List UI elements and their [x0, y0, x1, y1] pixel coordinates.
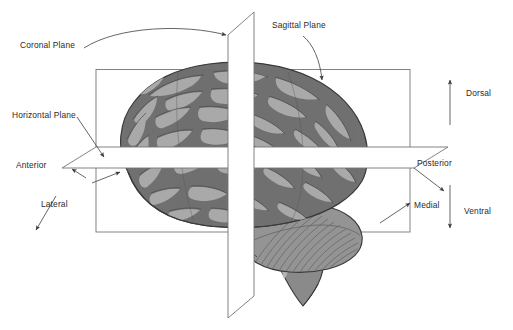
label-lateral: Lateral: [41, 199, 68, 209]
label-coronal-plane: Coronal Plane: [20, 40, 75, 50]
horizontal-plane-slab: [62, 147, 448, 168]
horizontal-plane: [62, 147, 448, 168]
figure-canvas: Coronal Plane Sagittal Plane Horizontal …: [0, 0, 513, 330]
label-anterior: Anterior: [16, 160, 47, 170]
sagittal-plane-slab: [228, 12, 254, 318]
label-dorsal: Dorsal: [466, 88, 491, 98]
label-ventral: Ventral: [464, 206, 491, 216]
label-horizontal-plane: Horizontal Plane: [12, 110, 76, 120]
label-medial: Medial: [414, 200, 440, 210]
label-sagittal-plane: Sagittal Plane: [272, 20, 326, 30]
sagittal-plane: [228, 12, 254, 318]
anatomical-planes-figure: Coronal Plane Sagittal Plane Horizontal …: [0, 0, 513, 330]
label-posterior: Posterior: [417, 158, 452, 168]
